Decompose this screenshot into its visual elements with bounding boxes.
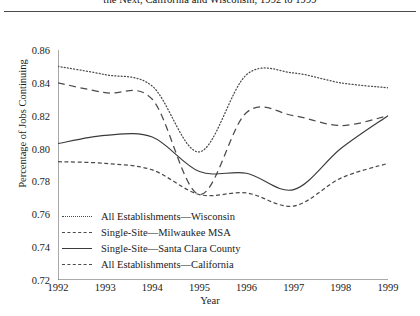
chart-title-text: the Next, California and Wisconsin, 1992… [0,0,420,6]
y-axis-tick-label: 0.74 [16,242,50,253]
legend-item-label: All Establishments—California [101,259,234,270]
legend-item: Single-Site—Santa Clara County [62,240,240,256]
legend-line-swatch-solid-icon [62,242,92,254]
x-axis-tick-label: 1998 [321,282,361,293]
legend-item-label: Single-Site—Santa Clara County [101,243,240,254]
x-axis-title: Year [0,295,420,306]
x-axis-tick-label: 1992 [38,282,78,293]
legend-item: All Establishments—Wisconsin [62,208,240,224]
y-axis-tick-label: 0.80 [16,143,50,154]
legend-line-swatch-dashed-icon [62,226,92,238]
x-axis-tick-label: 1997 [274,282,314,293]
y-axis-tick-label: 0.86 [16,45,50,56]
legend-line-swatch-dotted-icon [62,210,92,222]
x-axis-tick-label: 1993 [85,282,125,293]
y-axis-tick-label: 0.78 [16,176,50,187]
x-axis-tick-label: 1996 [227,282,267,293]
x-axis-tick-label: 1995 [179,282,219,293]
series-line-0 [58,66,388,151]
chart-legend: All Establishments—WisconsinSingle-Site—… [62,208,240,272]
chart-title: the Next, California and Wisconsin, 1992… [0,0,420,6]
y-axis-tick-label: 0.76 [16,209,50,220]
y-axis-tick-label: 0.84 [16,77,50,88]
title-divider [4,11,416,12]
series-line-3 [58,162,388,207]
legend-line-swatch-dash-dot-icon [62,258,92,270]
x-axis-tick-label: 1994 [132,282,172,293]
legend-item: Single-Site—Milwaukee MSA [62,224,240,240]
y-axis-tick-label: 0.82 [16,110,50,121]
series-line-1 [58,83,388,195]
chart-figure: the Next, California and Wisconsin, 1992… [0,0,420,316]
x-axis-tick-label: 1999 [368,282,408,293]
legend-item-label: Single-Site—Milwaukee MSA [101,227,231,238]
legend-item: All Establishments—California [62,256,240,272]
legend-item-label: All Establishments—Wisconsin [101,211,235,222]
